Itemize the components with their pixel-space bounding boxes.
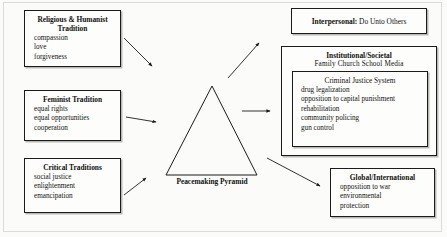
box-interpersonal: Interpersonal: Do Unto Others — [291, 8, 427, 34]
pyramid-caption: Peacemaking Pyramid — [150, 177, 274, 186]
list-item: rehabilitation — [301, 105, 427, 114]
list-item: environmental — [340, 192, 434, 201]
box-feminist-items: equal rights equal opportunities coopera… — [25, 104, 120, 133]
box-critical-items: social justice enlightenment emancipatio… — [25, 172, 120, 201]
list-item: cooperation — [34, 124, 120, 133]
list-item: community policing — [301, 114, 427, 123]
list-item: compassion — [34, 34, 120, 43]
list-item: emancipation — [34, 192, 120, 201]
list-item: gun control — [301, 124, 427, 133]
list-item: drug legalization — [301, 86, 427, 95]
list-item: equal opportunities — [34, 114, 120, 123]
list-item: protection — [340, 202, 434, 211]
box-criminal-title: Criminal Justice System — [293, 72, 427, 85]
box-institutional-title: Institutional/Societal — [282, 47, 436, 60]
list-item: equal rights — [34, 105, 120, 114]
box-global-international: Global/International opposition to war e… — [330, 168, 435, 217]
list-item: enlightenment — [34, 182, 120, 191]
box-critical-traditions: Critical Traditions social justice enlig… — [24, 158, 121, 213]
list-item: opposition to war — [340, 183, 434, 192]
box-feminist-title: Feminist Tradition — [25, 91, 120, 104]
list-item: opposition to capital punishment — [301, 95, 427, 104]
box-interpersonal-label: Interpersonal: — [312, 17, 358, 26]
list-item: forgiveness — [34, 53, 120, 62]
box-religious-items: compassion love forgiveness — [25, 33, 120, 62]
box-institutional-societal: Institutional/Societal Family Church Sch… — [281, 46, 437, 156]
box-religious-humanist-tradition: Religious & Humanist Tradition compassio… — [24, 10, 121, 67]
box-critical-title: Critical Traditions — [25, 159, 120, 172]
box-feminist-tradition: Feminist Tradition equal rights equal op… — [24, 90, 121, 141]
box-interpersonal-value: Do Unto Others — [359, 17, 406, 26]
box-global-title: Global/International — [331, 169, 434, 182]
box-criminal-items: drug legalization opposition to capital … — [293, 85, 427, 133]
box-criminal-justice-system: Criminal Justice System drug legalizatio… — [292, 71, 428, 147]
box-interpersonal-text: Interpersonal: Do Unto Others — [292, 9, 426, 26]
list-item: love — [34, 43, 120, 52]
box-global-items: opposition to war environmental protecti… — [331, 182, 434, 211]
box-religious-title: Religious & Humanist Tradition — [25, 11, 120, 33]
box-institutional-subtitle: Family Church School Media — [282, 60, 436, 69]
peacemaking-pyramid-diagram: Religious & Humanist Tradition compassio… — [0, 0, 447, 237]
list-item: social justice — [34, 173, 120, 182]
